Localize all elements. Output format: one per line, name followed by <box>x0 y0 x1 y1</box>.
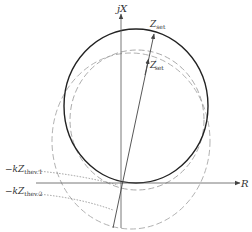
r-axis-label: R <box>240 178 249 189</box>
inner-dashed-circle <box>70 50 204 190</box>
solid-mho-circle <box>64 29 208 183</box>
jx-axis-label: jX <box>115 3 128 14</box>
kzthev2-label: −kZthev.2 <box>5 186 43 197</box>
zset-prime-arrow <box>145 59 149 75</box>
leader-kzthev2 <box>38 194 113 210</box>
impedance-diagram: jX R Zset Z′set −kZthev.1 −kZthev.2 <box>0 0 252 232</box>
zset-label: Zset <box>149 19 166 30</box>
kzthev1-label: −kZthev.1 <box>5 164 43 175</box>
